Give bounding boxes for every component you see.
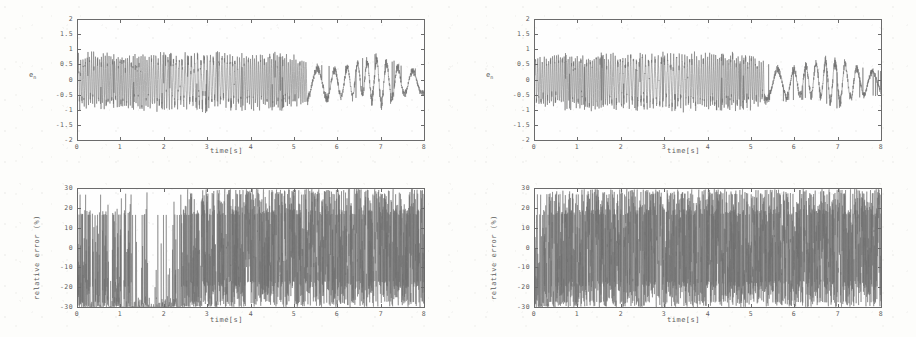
x-tick [251, 304, 252, 308]
y-tick-label: 0 [41, 245, 73, 252]
panel-top-left: en time[s] 21.510.50-0.5-1-1.5-201234567… [0, 0, 458, 170]
y-tick [534, 80, 538, 81]
x-tick-label: 5 [741, 144, 761, 151]
x-tick [120, 304, 121, 308]
x-tick [337, 304, 338, 308]
y-tick [77, 267, 81, 268]
y-tick-label: -20 [498, 284, 530, 291]
x-tick [207, 304, 208, 308]
y-tick-label: -10 [41, 264, 73, 271]
x-tick [164, 304, 165, 308]
x-tick [838, 304, 839, 308]
y-tick-label: 10 [41, 225, 73, 232]
figure-canvas: en time[s] 21.510.50-0.5-1-1.5-201234567… [0, 0, 916, 337]
x-tick [77, 19, 78, 23]
x-tick [751, 19, 752, 23]
x-tick [751, 304, 752, 308]
x-tick [881, 188, 882, 192]
x-tick [621, 188, 622, 192]
y-tick [77, 125, 81, 126]
y-tick [878, 64, 882, 65]
x-tick [621, 137, 622, 141]
y-tick-label: 10 [498, 225, 530, 232]
y-tick-label: -1 [41, 107, 73, 114]
x-tick [664, 188, 665, 192]
x-tick [77, 188, 78, 192]
trace-svg [535, 189, 881, 307]
axis-title-bottom-left-y: relative error (%) [34, 215, 41, 300]
y-tick-label: -20 [41, 284, 73, 291]
x-tick [337, 19, 338, 23]
plot-area-top-right [534, 19, 882, 141]
x-tick [881, 304, 882, 308]
x-tick [381, 137, 382, 141]
y-tick-label: 0 [498, 245, 530, 252]
y-tick-label: -1.5 [41, 122, 73, 129]
x-tick [664, 304, 665, 308]
x-tick [424, 137, 425, 141]
x-tick [77, 137, 78, 141]
x-tick-label: 4 [698, 311, 718, 318]
y-tick-label: -30 [498, 304, 530, 311]
x-tick-label: 5 [741, 311, 761, 318]
x-tick [77, 304, 78, 308]
x-tick [794, 19, 795, 23]
panel-bottom-right: relative error (%) time[s] 3020100-10-20… [458, 170, 916, 337]
x-tick [577, 304, 578, 308]
x-tick [251, 137, 252, 141]
x-tick [337, 188, 338, 192]
x-tick [708, 188, 709, 192]
x-tick [751, 188, 752, 192]
x-tick-label: 5 [284, 311, 304, 318]
y-tick [534, 95, 538, 96]
y-tick-label: 1.5 [41, 31, 73, 38]
x-tick [381, 19, 382, 23]
plot-area-bottom-right [534, 188, 882, 308]
x-tick [534, 304, 535, 308]
y-tick [534, 267, 538, 268]
x-tick [294, 188, 295, 192]
y-tick-label: -2 [498, 137, 530, 144]
y-tick [421, 64, 425, 65]
x-tick-label: 7 [371, 311, 391, 318]
x-tick [381, 304, 382, 308]
panel-bottom-left: relative error (%) time[s] 3020100-10-20… [0, 170, 458, 337]
x-tick [424, 304, 425, 308]
x-tick [251, 19, 252, 23]
x-tick-label: 3 [654, 311, 674, 318]
x-tick [251, 188, 252, 192]
y-tick-label: -0.5 [498, 92, 530, 99]
x-tick [838, 19, 839, 23]
y-tick-label: 1 [41, 46, 73, 53]
x-tick [708, 304, 709, 308]
x-tick-label: 1 [110, 311, 130, 318]
y-tick-label: -0.5 [41, 92, 73, 99]
axis-title-bottom-left-x: time[s] [210, 317, 243, 324]
trace-svg [535, 20, 881, 140]
y-tick [878, 95, 882, 96]
x-tick-label: 8 [414, 144, 434, 151]
y-tick [77, 34, 81, 35]
x-tick-label: 0 [524, 311, 544, 318]
trace-svg [78, 189, 424, 307]
y-tick [421, 125, 425, 126]
y-tick [77, 228, 81, 229]
x-tick-label: 4 [698, 144, 718, 151]
x-tick-label: 0 [524, 144, 544, 151]
x-tick [120, 137, 121, 141]
x-tick [424, 19, 425, 23]
x-tick [534, 19, 535, 23]
x-tick [534, 137, 535, 141]
x-tick-label: 6 [327, 311, 347, 318]
x-tick [881, 137, 882, 141]
y-tick-label: 2 [41, 16, 73, 23]
x-tick-label: 3 [197, 311, 217, 318]
x-tick-label: 6 [784, 311, 804, 318]
y-tick [77, 64, 81, 65]
x-tick [881, 19, 882, 23]
x-tick [794, 304, 795, 308]
x-tick-label: 2 [611, 311, 631, 318]
x-tick [294, 137, 295, 141]
x-tick-label: 3 [197, 144, 217, 151]
y-tick [421, 208, 425, 209]
